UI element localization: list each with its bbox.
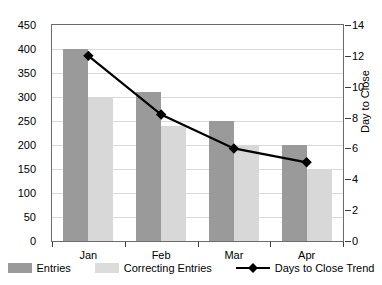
y-axis-right-tick-mark — [345, 118, 351, 119]
y-axis-right-tick-mark — [345, 148, 351, 149]
y-axis-right-tick-mark — [345, 25, 351, 26]
plot-area — [51, 24, 344, 242]
y-axis-right-tick-mark — [345, 179, 351, 180]
y-axis-tick-label: 200 — [18, 140, 36, 151]
trend-marker-diamond — [229, 143, 239, 153]
y-axis-right-tick-label: 12 — [352, 50, 364, 61]
x-axis-tick-mark — [198, 242, 199, 247]
trend-marker-diamond — [301, 157, 311, 167]
y-axis-right-tick-label: 0 — [352, 236, 358, 247]
legend-item[interactable]: Days to Close Trend — [236, 262, 375, 274]
x-axis-tick-mark — [270, 242, 271, 247]
trend-line-series — [52, 25, 343, 241]
y-axis-right-tick-label: 14 — [352, 20, 364, 31]
y-axis-tick-label: 450 — [18, 20, 36, 31]
y-axis-right-title: Day to Close — [360, 70, 371, 133]
legend-line-diamond-icon — [236, 263, 270, 273]
x-axis-tick-mark — [125, 242, 126, 247]
y-axis-right-tick-label: 4 — [352, 174, 358, 185]
combo-chart: 050100150200250300350400450 02468101214 … — [0, 0, 382, 285]
y-axis-right-tick-label: 6 — [352, 143, 358, 154]
x-axis-tick-mark — [343, 242, 344, 247]
y-axis-tick-label: 350 — [18, 68, 36, 79]
chart-legend: EntriesCorrecting EntriesDays to Close T… — [0, 262, 382, 274]
y-axis-right-tick-mark — [345, 210, 351, 211]
legend-item-label: Correcting Entries — [124, 262, 212, 274]
y-axis-tick-label: 100 — [18, 188, 36, 199]
legend-item-label: Entries — [37, 262, 71, 274]
y-axis-right-tick-label: 8 — [352, 112, 358, 123]
y-axis-tick-label: 250 — [18, 116, 36, 127]
y-axis-right-tick-mark — [345, 241, 351, 242]
y-axis-right-tick-mark — [345, 87, 351, 88]
y-axis-tick-label: 300 — [18, 92, 36, 103]
legend-swatch-entries-icon — [8, 263, 32, 273]
legend-item[interactable]: Entries — [8, 262, 71, 274]
trend-line-path — [88, 56, 306, 162]
x-axis-tick-label: Mar — [224, 249, 243, 261]
x-axis-tick-label: Jan — [80, 249, 98, 261]
x-axis-tick-mark — [52, 242, 53, 247]
legend-swatch-correcting-entries-icon — [95, 263, 119, 273]
y-axis-right-tick-mark — [345, 56, 351, 57]
y-axis-tick-label: 0 — [30, 236, 36, 247]
y-axis-tick-label: 150 — [18, 164, 36, 175]
y-axis-right-tick-label: 2 — [352, 205, 358, 216]
legend-item-label: Days to Close Trend — [275, 262, 375, 274]
x-axis-tick-label: Apr — [298, 249, 315, 261]
x-axis-tick-label: Feb — [152, 249, 171, 261]
y-axis-tick-label: 400 — [18, 44, 36, 55]
y-axis-tick-label: 50 — [24, 212, 36, 223]
legend-item[interactable]: Correcting Entries — [95, 262, 212, 274]
